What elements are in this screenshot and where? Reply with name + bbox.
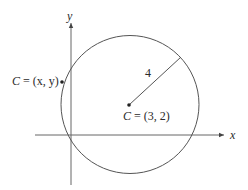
center-label-eq: = (3, 2): [131, 109, 170, 123]
center-label-var: C: [123, 109, 131, 123]
point-label: C = (x, y): [12, 75, 59, 87]
radius-line: [129, 57, 181, 105]
point-on-circle: [60, 80, 64, 84]
diagram-svg: [0, 0, 248, 190]
x-axis-label: x: [230, 129, 235, 141]
point-label-eq: = (x, y): [20, 74, 59, 88]
center-label: C = (3, 2): [123, 110, 170, 122]
point-label-var: C: [12, 74, 20, 88]
diagram-canvas: y x 4 C = (3, 2) C = (x, y): [0, 0, 248, 190]
radius-label: 4: [145, 67, 151, 79]
center-point: [127, 103, 131, 107]
y-axis-label: y: [67, 10, 72, 22]
